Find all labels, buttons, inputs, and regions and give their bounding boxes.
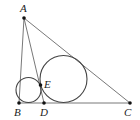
point-a: [22, 16, 26, 20]
label-a: A: [19, 2, 27, 14]
point-b: [17, 101, 21, 105]
label-e: E: [43, 78, 51, 90]
segment-ab: [19, 18, 24, 103]
label-b: B: [14, 106, 21, 118]
label-d: D: [39, 106, 48, 118]
point-d: [42, 101, 46, 105]
label-c: C: [124, 106, 132, 118]
point-c: [128, 101, 132, 105]
point-e: [39, 83, 43, 87]
incircles: [16, 56, 87, 103]
segment-ac: [24, 18, 130, 103]
geometry-diagram: A B C D E: [0, 0, 140, 120]
triangle-segments: [19, 18, 130, 103]
